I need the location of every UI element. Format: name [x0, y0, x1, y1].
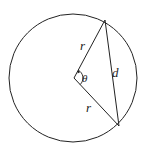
angle-label: θ — [82, 72, 88, 84]
radius-line-top — [74, 20, 105, 78]
circle-chord-diagram: r θ d r — [0, 0, 145, 154]
radius-label-bottom: r — [86, 100, 92, 115]
radius-line-bottom — [74, 78, 119, 126]
radius-label-top: r — [80, 38, 86, 53]
chord-label: d — [112, 65, 119, 80]
